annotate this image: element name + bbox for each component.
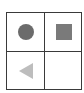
grid-cell-top-left[interactable] [7, 13, 44, 51]
triangle-left-icon [19, 63, 33, 79]
grid-cell-bottom-left[interactable] [7, 52, 44, 90]
circle-icon [18, 24, 34, 40]
grid-cell-bottom-right[interactable] [45, 52, 82, 90]
square-icon [56, 24, 72, 40]
shape-grid [6, 12, 82, 90]
grid-cell-top-right[interactable] [45, 13, 82, 51]
